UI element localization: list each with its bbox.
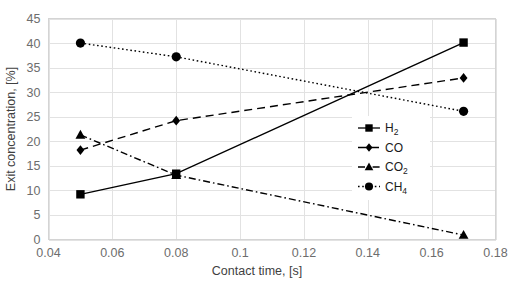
x-axis-title: Contact time, [s]	[212, 264, 302, 278]
y-tick-label: 45	[27, 12, 41, 26]
y-tick-label: 35	[27, 61, 41, 75]
data-point-ch4	[76, 38, 85, 47]
legend-label: CO	[385, 141, 403, 155]
y-axis-title: Exit concentration, [%]	[4, 67, 18, 191]
legend-marker	[365, 124, 372, 131]
x-tick-label: 0.1	[231, 246, 248, 260]
x-tick-label: 0.08	[164, 246, 188, 260]
y-tick-label: 25	[27, 110, 41, 124]
chart-legend: H2COCO2CH4	[352, 116, 430, 200]
legend-marker	[365, 182, 373, 190]
y-tick-label: 5	[34, 208, 41, 222]
x-tick-label: 0.12	[292, 246, 316, 260]
y-tick-label: 10	[27, 184, 41, 198]
data-point-h2	[459, 38, 467, 46]
y-tick-label: 20	[27, 135, 41, 149]
x-tick-label: 0.18	[483, 246, 507, 260]
y-tick-label: 15	[27, 159, 41, 173]
line-chart: 051015202530354045 0.040.060.080.10.120.…	[0, 0, 514, 290]
chart-figure: 051015202530354045 0.040.060.080.10.120.…	[0, 0, 514, 290]
data-point-ch4	[172, 52, 181, 61]
x-tick-label: 0.04	[36, 246, 60, 260]
data-point-h2	[76, 190, 84, 198]
x-tick-label: 0.06	[100, 246, 124, 260]
data-point-ch4	[459, 107, 468, 116]
x-tick-label: 0.14	[356, 246, 380, 260]
x-tick-label: 0.16	[419, 246, 443, 260]
y-tick-label: 30	[27, 86, 41, 100]
y-tick-label: 40	[27, 37, 41, 51]
